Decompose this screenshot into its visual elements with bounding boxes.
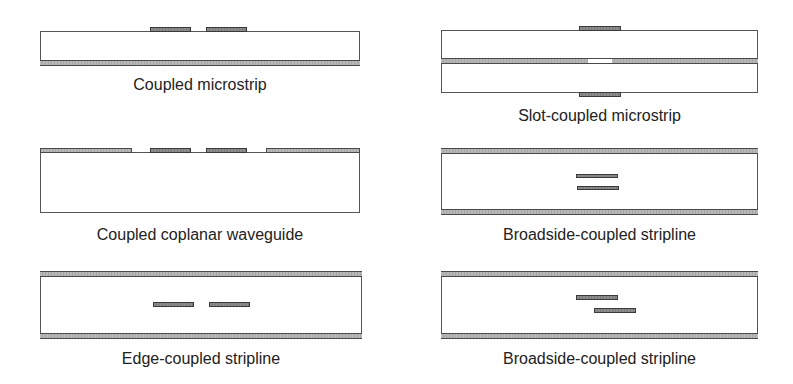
substrate <box>441 271 758 339</box>
ground-right <box>266 148 360 153</box>
coupled-strip-left <box>153 302 194 307</box>
bottom-ground-plane <box>441 333 758 339</box>
ground-plane-right <box>612 58 758 64</box>
ground-plane-left <box>441 58 589 64</box>
top-strip <box>579 26 621 31</box>
substrate <box>40 152 360 213</box>
panel-label: Coupled microstrip <box>40 76 360 94</box>
coupling-slot <box>588 58 613 64</box>
coupled-strip-right <box>206 148 247 153</box>
coupled-strip-right <box>209 302 250 307</box>
top-ground-plane <box>40 271 362 277</box>
lower-strip <box>577 186 619 190</box>
coupled-strip-left <box>150 27 191 32</box>
panel-label: Edge-coupled stripline <box>40 350 362 368</box>
panel-label: Coupled coplanar waveguide <box>40 226 360 244</box>
bottom-ground-plane <box>40 333 362 339</box>
upper-strip <box>576 174 618 178</box>
upper-strip <box>576 295 618 300</box>
ground-plane <box>40 60 360 66</box>
substrate <box>441 148 758 215</box>
ground-left <box>40 148 132 153</box>
top-ground-plane <box>441 148 758 154</box>
substrate <box>40 271 362 339</box>
panel-label: Slot-coupled microstrip <box>441 107 758 125</box>
coupled-strip-left <box>150 148 191 153</box>
lower-offset-strip <box>594 308 636 313</box>
coupled-strip-right <box>206 27 247 32</box>
top-ground-plane <box>441 271 758 277</box>
panel-label: Broadside-coupled stripline <box>441 350 758 368</box>
panel-label: Broadside-coupled stripline <box>441 226 758 244</box>
bottom-ground-plane <box>441 209 758 215</box>
bottom-strip <box>579 92 621 97</box>
